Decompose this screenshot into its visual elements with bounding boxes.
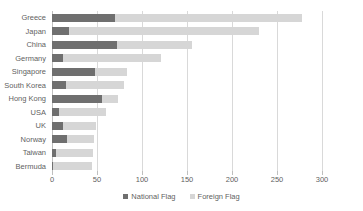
bar-segment-national xyxy=(52,95,102,103)
bar-row xyxy=(52,106,322,120)
bar-row xyxy=(52,38,322,52)
bar-segment-national xyxy=(52,14,115,22)
y-axis-label-greece: Greece xyxy=(21,11,46,25)
bar-segment-foreign xyxy=(69,27,259,35)
bar-segment-foreign xyxy=(53,162,92,170)
y-axis-label-china: China xyxy=(26,38,46,52)
x-tick-label-200: 200 xyxy=(226,175,239,184)
legend-swatch-icon xyxy=(123,194,128,199)
bar-row xyxy=(52,146,322,160)
y-axis-label-singapore: Singapore xyxy=(12,65,46,79)
bar-segment-foreign xyxy=(63,54,161,62)
y-axis-label-germany: Germany xyxy=(15,52,46,66)
y-axis-label-south-korea: South Korea xyxy=(4,79,46,93)
chart-legend: National FlagForeign Flag xyxy=(0,192,363,201)
y-axis-label-hong-kong: Hong Kong xyxy=(8,92,46,106)
x-axis-tick-labels: 050100150200250300 xyxy=(52,175,322,187)
y-axis-label-bermuda: Bermuda xyxy=(16,160,46,174)
bar-segment-national xyxy=(52,122,63,130)
bar-segment-foreign xyxy=(63,122,96,130)
x-tick-label-150: 150 xyxy=(181,175,194,184)
plot-area xyxy=(52,11,322,173)
bar-segment-national xyxy=(52,41,117,49)
bar-segment-foreign xyxy=(117,41,193,49)
y-axis-label-japan: Japan xyxy=(26,25,46,39)
y-axis-label-taiwan: Taiwan xyxy=(23,146,46,160)
bar-segment-foreign xyxy=(66,81,124,89)
stacked-bar-chart: GreeceJapanChinaGermanySingaporeSouth Ko… xyxy=(0,0,363,211)
x-tick-label-0: 0 xyxy=(50,175,54,184)
bar-row xyxy=(52,52,322,66)
y-axis-category-labels: GreeceJapanChinaGermanySingaporeSouth Ko… xyxy=(0,11,50,173)
x-tick-label-300: 300 xyxy=(316,175,329,184)
bar-row xyxy=(52,119,322,133)
bar-segment-national xyxy=(52,135,67,143)
bar-segment-foreign xyxy=(95,68,127,76)
bar-segment-national xyxy=(52,68,95,76)
legend-item-foreign-flag[interactable]: Foreign Flag xyxy=(190,192,240,201)
bar-row xyxy=(52,65,322,79)
bar-row xyxy=(52,25,322,39)
bar-row xyxy=(52,11,322,25)
y-axis-label-uk: UK xyxy=(36,119,46,133)
x-tick-label-50: 50 xyxy=(93,175,101,184)
legend-item-national-flag[interactable]: National Flag xyxy=(123,192,175,201)
x-tick-label-250: 250 xyxy=(271,175,284,184)
bar-segment-foreign xyxy=(115,14,302,22)
bar-segment-foreign xyxy=(67,135,94,143)
bar-segment-national xyxy=(52,54,63,62)
bar-segment-foreign xyxy=(59,108,106,116)
bar-segment-foreign xyxy=(102,95,118,103)
bar-row xyxy=(52,92,322,106)
legend-label: Foreign Flag xyxy=(198,192,240,201)
bar-segment-national xyxy=(52,27,69,35)
bar-row xyxy=(52,79,322,93)
legend-label: National Flag xyxy=(131,192,175,201)
bar-segment-national xyxy=(52,81,66,89)
bar-segment-foreign xyxy=(56,149,94,157)
legend-swatch-icon xyxy=(190,194,195,199)
bar-row xyxy=(52,133,322,147)
gridline-300 xyxy=(322,11,323,173)
bar-rows xyxy=(52,11,322,173)
x-tick-label-100: 100 xyxy=(136,175,149,184)
y-axis-label-usa: USA xyxy=(31,106,46,120)
y-axis-label-norway: Norway xyxy=(21,133,46,147)
bar-segment-national xyxy=(52,108,59,116)
